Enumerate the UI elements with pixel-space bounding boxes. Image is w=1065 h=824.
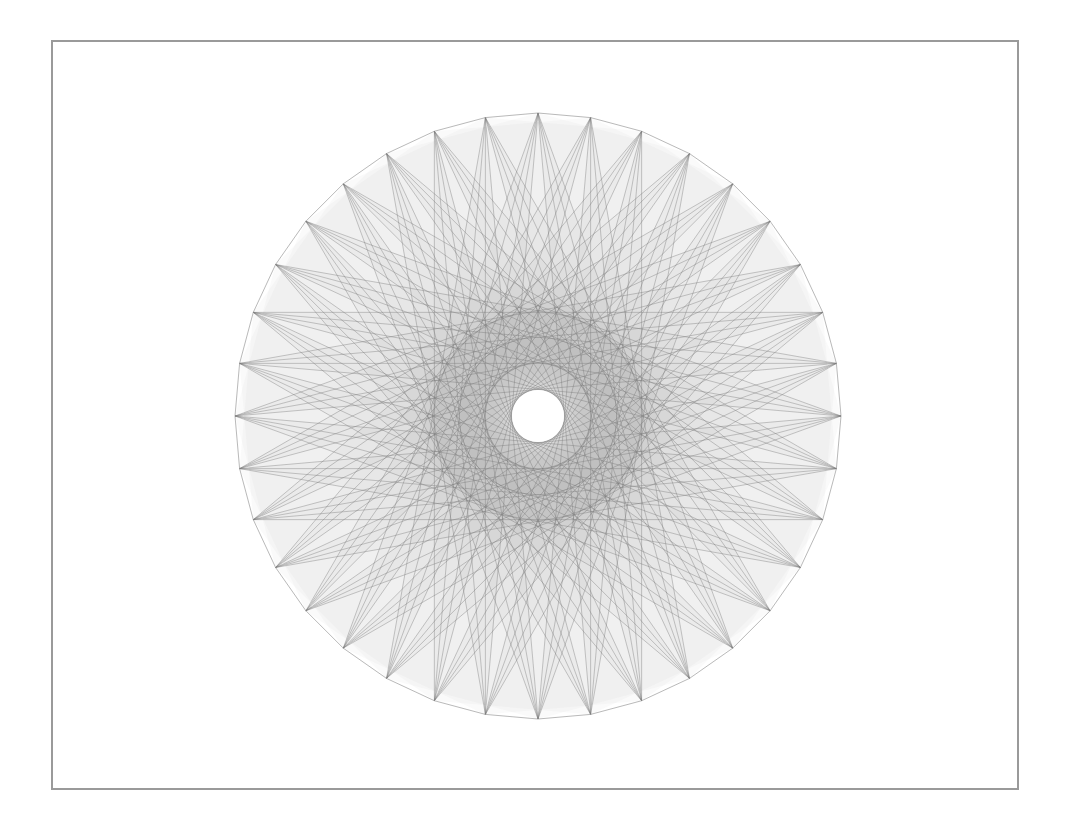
center-hole [512, 390, 564, 442]
string-art-figure [0, 0, 1065, 824]
